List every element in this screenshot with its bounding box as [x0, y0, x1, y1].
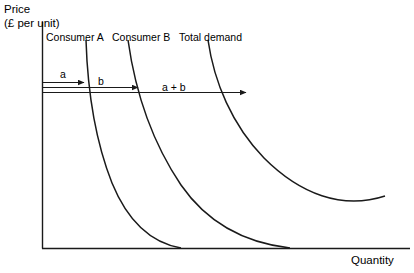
curve-label-consumer-b: Consumer B	[112, 31, 170, 43]
segment-label-a-plus-b: a + b	[162, 81, 186, 93]
y-axis-title-line2: (£ per unit)	[4, 17, 60, 29]
demand-curve-diagram: Price (£ per unit) Quantity Consumer A C…	[0, 0, 414, 273]
x-axis-title: Quantity	[351, 254, 394, 268]
curve-label-consumer-a: Consumer A	[46, 31, 104, 43]
measure-arrows	[43, 83, 246, 93]
segment-label-a: a	[60, 68, 66, 80]
curve-total-demand	[208, 40, 385, 201]
curve-consumer-b	[128, 40, 290, 248]
y-axis-title: Price (£ per unit)	[4, 3, 60, 30]
demand-curves	[86, 40, 385, 248]
curve-label-total-demand: Total demand	[179, 31, 242, 43]
y-axis-title-line1: Price	[4, 3, 30, 15]
segment-label-b: b	[98, 75, 104, 87]
